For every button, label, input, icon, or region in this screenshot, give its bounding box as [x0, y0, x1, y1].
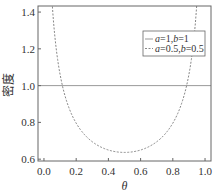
y-tick-label: 0.6 — [21, 153, 35, 165]
x-tick-label: 1.0 — [198, 165, 212, 177]
legend: a=1,b=1a=0.5,b=0.5 — [143, 31, 205, 56]
y-tick-label: 1.0 — [21, 80, 35, 92]
x-tick-label: 0.6 — [134, 165, 148, 177]
x-axis-label: θ — [122, 179, 128, 193]
y-axis-label: 密度 — [1, 73, 16, 97]
series-line-1 — [48, 0, 201, 152]
x-tick-label: 0.0 — [37, 165, 51, 177]
y-tick-label: 1.2 — [21, 43, 35, 55]
y-tick-label: 0.8 — [21, 116, 35, 128]
series-layer — [38, 0, 211, 152]
beta-density-chart: 0.00.20.40.60.81.0 0.60.81.01.21.4 θ 密度 … — [0, 0, 220, 196]
x-tick-label: 0.4 — [102, 165, 116, 177]
legend-label: a=0.5,b=0.5 — [155, 43, 204, 54]
plot-frame — [38, 6, 211, 161]
x-tick-label: 0.8 — [166, 165, 180, 177]
y-tick-label: 1.4 — [21, 6, 35, 18]
x-tick-label: 0.2 — [69, 165, 83, 177]
